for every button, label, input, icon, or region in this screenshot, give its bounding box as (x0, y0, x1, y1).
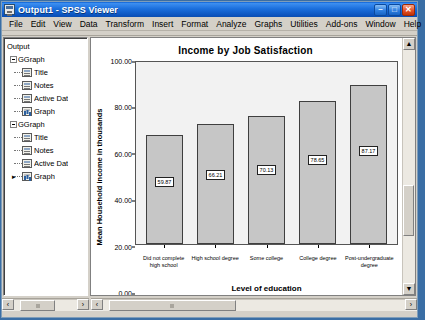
title-item-icon (22, 68, 32, 77)
output-document[interactable]: Income by Job Satisfaction Mean Househol… (91, 38, 402, 295)
tree-connector (14, 85, 22, 87)
tree-item-ggraph-1[interactable]: GGraph (6, 53, 87, 66)
menu-window[interactable]: Window (361, 18, 399, 30)
tree-item-title-2[interactable]: Title (6, 131, 87, 144)
y-tick-label: 40.00 (114, 197, 132, 204)
tree-item-active-dataset-2[interactable]: Active Dat (6, 157, 87, 170)
x-category-label: Some college (242, 255, 291, 281)
tree-connector (14, 98, 22, 100)
window-title: Output1 - SPSS Viewer (18, 5, 374, 15)
menu-data[interactable]: Data (76, 18, 102, 30)
bar-did-not-complete-high-school[interactable]: 59.87 (146, 135, 183, 244)
tree-label: Active Dat (34, 94, 68, 103)
plot-column: 59.87 66.21 (135, 61, 398, 293)
expand-toggle-icon[interactable] (10, 56, 17, 63)
tree-label: Graph (34, 172, 55, 181)
tree-label: GGraph (18, 55, 45, 64)
tree-item-notes-2[interactable]: Notes (6, 144, 87, 157)
tree-item-output[interactable]: Output (6, 40, 87, 53)
close-button[interactable]: ✕ (402, 4, 415, 16)
bar-slot[interactable]: 87.17 (346, 62, 391, 244)
status-bar (2, 310, 417, 317)
document-horizontal-scrollbar[interactable]: ‹ › (91, 298, 417, 310)
bar-value-label: 78.65 (308, 155, 328, 165)
y-axis-title: Mean Household income in thousands (93, 61, 105, 293)
x-tick (192, 245, 237, 255)
tree-item-title-1[interactable]: Title (6, 66, 87, 79)
tree-connector (14, 137, 22, 139)
tree-item-graph-2[interactable]: ▸ Graph (6, 170, 87, 183)
x-axis-ticks (135, 245, 398, 255)
window-controls: – □ ✕ (374, 4, 415, 16)
y-tick-label: 0.00 (118, 290, 132, 296)
scroll-up-button[interactable]: ▲ (403, 38, 415, 50)
x-axis-categories: Did not complete high school High school… (135, 255, 398, 281)
tree-label: Notes (34, 81, 54, 90)
scroll-down-button[interactable]: ▼ (403, 283, 415, 295)
outline-pane[interactable]: Output GGraph Title Notes (3, 37, 88, 296)
expand-toggle-icon[interactable] (10, 121, 17, 128)
tree-item-notes-1[interactable]: Notes (6, 79, 87, 92)
document-scroll-track[interactable] (103, 299, 405, 311)
outline-scroll-right-button[interactable]: › (77, 299, 89, 310)
bar-some-college[interactable]: 70.13 (248, 116, 285, 244)
minimize-button[interactable]: – (374, 4, 387, 16)
tree-item-graph-1[interactable]: Graph (6, 105, 87, 118)
bar-post-undergraduate-degree[interactable]: 87.17 (350, 85, 387, 244)
tree-label: Output (7, 42, 30, 51)
outline-horizontal-scrollbar[interactable]: ‹ › (2, 298, 89, 310)
bottom-scrollbar-row: ‹ › ‹ › (2, 297, 417, 310)
menu-view[interactable]: View (49, 18, 75, 30)
bar-slot[interactable]: 59.87 (142, 62, 187, 244)
selection-marker-icon: ▸ (12, 174, 17, 179)
viewer-panes: Output GGraph Title Notes (2, 36, 417, 297)
outline-scroll-thumb[interactable] (20, 300, 55, 311)
title-bar[interactable]: Output1 - SPSS Viewer – □ ✕ (2, 2, 417, 17)
tree-connector (14, 150, 22, 152)
y-tick-label: 20.00 (114, 243, 132, 250)
maximize-button[interactable]: □ (388, 4, 401, 16)
menu-transform[interactable]: Transform (102, 18, 148, 30)
menu-file[interactable]: File (5, 18, 27, 30)
bar-value-label: 66.21 (206, 170, 226, 180)
bar-slot[interactable]: 66.21 (193, 62, 238, 244)
close-icon: ✕ (403, 5, 414, 15)
tree-item-ggraph-2[interactable]: GGraph (6, 118, 87, 131)
bar-high-school-degree[interactable]: 66.21 (197, 124, 234, 245)
y-axis-ticks: 100.00 80.00 60.00 40.00 20.00 0.00 (105, 61, 135, 293)
menu-utilities[interactable]: Utilities (286, 18, 321, 30)
menu-insert[interactable]: Insert (148, 18, 177, 30)
chart-title: Income by Job Satisfaction (93, 45, 398, 56)
outline-scroll-track[interactable] (14, 299, 77, 311)
tree-item-active-dataset-1[interactable]: Active Dat (6, 92, 87, 105)
menu-graphs[interactable]: Graphs (250, 18, 286, 30)
tree-label: Active Dat (34, 159, 68, 168)
menu-help[interactable]: Help (400, 18, 425, 30)
y-tick-label: 60.00 (114, 150, 132, 157)
document-viewport: Income by Job Satisfaction Mean Househol… (90, 37, 416, 296)
bar-college-degree[interactable]: 78.65 (299, 101, 336, 244)
active-dataset-icon (22, 94, 32, 103)
tree-label: GGraph (18, 120, 45, 129)
document-scroll-left-button[interactable]: ‹ (91, 299, 103, 310)
document-scroll-thumb[interactable] (109, 300, 236, 311)
maximize-icon: □ (389, 5, 400, 15)
menu-edit[interactable]: Edit (27, 18, 50, 30)
bar-slot[interactable]: 78.65 (295, 62, 340, 244)
menu-format[interactable]: Format (177, 18, 212, 30)
document-vertical-scrollbar[interactable]: ▲ ▼ (402, 38, 415, 295)
active-dataset-icon (22, 159, 32, 168)
vertical-scroll-thumb[interactable] (403, 185, 414, 236)
menu-add-ons[interactable]: Add-ons (322, 18, 362, 30)
x-category-label: College degree (293, 255, 342, 281)
menu-analyze[interactable]: Analyze (212, 18, 250, 30)
bar-slot[interactable]: 70.13 (244, 62, 289, 244)
x-tick (347, 245, 392, 255)
y-axis-title-text: Mean Household income in thousands (95, 108, 104, 245)
outline-scroll-left-button[interactable]: ‹ (2, 299, 14, 310)
document-scroll-right-button[interactable]: › (405, 299, 417, 310)
vertical-scroll-track[interactable] (403, 50, 415, 283)
bar-chart[interactable]: Income by Job Satisfaction Mean Househol… (91, 38, 402, 295)
outline-tree[interactable]: Output GGraph Title Notes (4, 38, 87, 295)
tree-label: Graph (34, 107, 55, 116)
